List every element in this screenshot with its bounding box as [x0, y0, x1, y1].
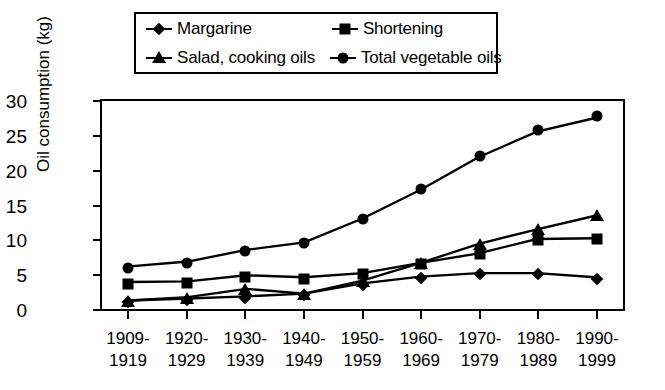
data-point-total-vegetable-oils-1: [181, 257, 192, 268]
x-tick-label-line: 1990-: [560, 328, 634, 350]
data-point-total-vegetable-oils-2: [240, 245, 251, 256]
x-tick-label-line: 1999: [560, 350, 634, 372]
data-point-margarine-6: [473, 268, 486, 281]
data-point-total-vegetable-oils-7: [533, 125, 544, 136]
data-point-shortening-1: [181, 277, 192, 288]
data-point-shortening-3: [298, 273, 309, 284]
x-tick-label: 1990-1999: [560, 328, 634, 372]
x-tick-mark: [186, 311, 188, 319]
data-point-total-vegetable-oils-6: [474, 151, 485, 162]
x-tick-mark: [420, 311, 422, 319]
x-tick-mark: [127, 311, 129, 319]
data-point-margarine-7: [532, 268, 545, 281]
data-point-margarine-8: [591, 272, 604, 285]
data-point-margarine-5: [415, 272, 428, 285]
data-point-shortening-0: [123, 278, 134, 289]
data-point-total-vegetable-oils-3: [298, 238, 309, 249]
data-point-salad-cooking-oils-7: [531, 223, 545, 235]
data-point-salad-cooking-oils-6: [473, 238, 487, 250]
data-point-salad-cooking-oils-4: [356, 275, 370, 287]
data-point-shortening-2: [240, 271, 251, 282]
x-tick-mark: [244, 311, 246, 319]
data-point-salad-cooking-oils-0: [121, 295, 135, 307]
x-tick-mark: [479, 311, 481, 319]
data-point-shortening-6: [474, 249, 485, 260]
data-point-total-vegetable-oils-4: [357, 213, 368, 224]
x-tick-mark: [303, 311, 305, 319]
data-point-total-vegetable-oils-0: [123, 262, 134, 273]
data-point-shortening-8: [592, 233, 603, 244]
x-tick-mark: [537, 311, 539, 319]
data-point-salad-cooking-oils-8: [590, 209, 604, 221]
data-point-total-vegetable-oils-8: [592, 111, 603, 122]
data-point-salad-cooking-oils-5: [414, 257, 428, 269]
data-point-salad-cooking-oils-3: [297, 288, 311, 300]
chart-figure: Margarine Shortening Salad, cooking oils: [0, 0, 665, 390]
data-point-salad-cooking-oils-1: [180, 292, 194, 304]
x-tick-mark: [596, 311, 598, 319]
x-tick-mark: [362, 311, 364, 319]
data-point-shortening-7: [533, 234, 544, 245]
data-point-total-vegetable-oils-5: [416, 184, 427, 195]
data-point-salad-cooking-oils-2: [238, 284, 252, 296]
